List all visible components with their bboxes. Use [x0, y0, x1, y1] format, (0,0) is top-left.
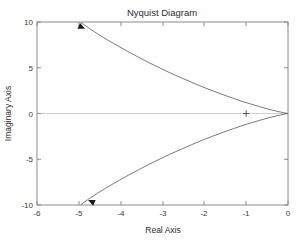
- nyquist-curve-upper: [81, 22, 288, 113]
- x-tick-labels: -6 -5 -4 -3 -2 -1 0: [33, 209, 290, 218]
- x-tick-label: -6: [33, 209, 41, 218]
- y-tick-label: 5: [29, 64, 34, 73]
- x-tick-label: 0: [286, 209, 291, 218]
- chart-title: Nyquist Diagram: [127, 7, 197, 18]
- direction-arrows: [77, 23, 95, 206]
- x-tick-label: -4: [117, 209, 125, 218]
- critical-point-marker: [243, 110, 249, 116]
- nyquist-diagram-figure: Nyquist Diagram: [0, 0, 300, 243]
- nyquist-curve-lower: [81, 114, 288, 205]
- y-axis-label: Imaginary Axis: [3, 86, 13, 141]
- chart-canvas: Nyquist Diagram: [0, 0, 300, 243]
- direction-arrow-lower: [87, 197, 96, 206]
- y-tick-label: 10: [24, 18, 33, 27]
- x-axis-label: Real Axis: [145, 225, 180, 235]
- x-tick-label: -1: [242, 209, 250, 218]
- x-tick-label: -5: [75, 209, 83, 218]
- y-tick-label: -10: [21, 201, 33, 210]
- y-tick-label: -5: [26, 155, 34, 164]
- x-tick-label: -3: [159, 209, 167, 218]
- y-tick-labels: 10 5 0 -5 -10: [21, 18, 33, 210]
- y-tick-label: 0: [29, 110, 34, 119]
- x-tick-label: -2: [200, 209, 208, 218]
